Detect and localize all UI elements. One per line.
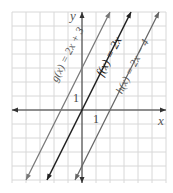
graph: y x 1 1 g(x) = 2x + 3 f(x) = 2x h(x) = 2… (0, 0, 173, 193)
y-axis-label: y (70, 8, 76, 24)
x-axis-label: x (158, 113, 164, 129)
coordinate-plane (0, 0, 173, 193)
x-tick-1: 1 (93, 112, 99, 127)
y-tick-1: 1 (73, 91, 79, 106)
